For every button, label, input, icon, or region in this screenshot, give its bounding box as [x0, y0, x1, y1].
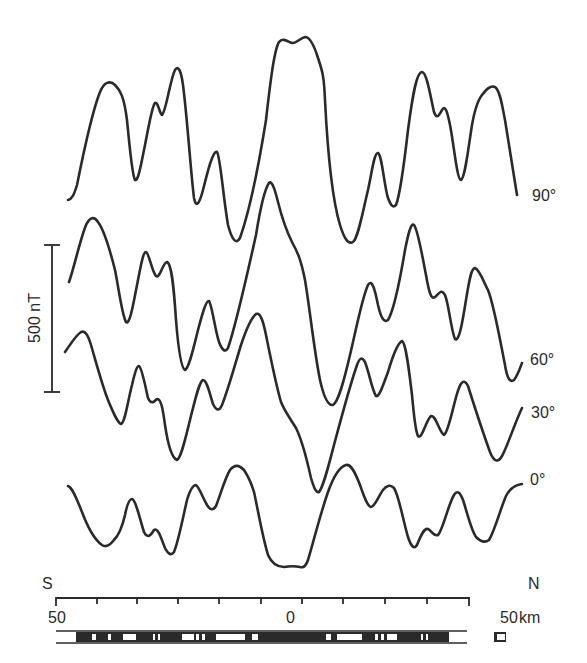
- inclination-label-60: 60°: [530, 352, 554, 368]
- profile-curve-30: [65, 314, 522, 492]
- profile-curve-60: [69, 182, 522, 405]
- polarity-stripes: [56, 631, 506, 643]
- inclination-label-90: 90°: [532, 188, 556, 204]
- scale-bar-label: 500 nT: [27, 293, 43, 343]
- distance-label-center: 0: [286, 610, 295, 626]
- direction-label-north: N: [528, 576, 540, 592]
- distance-unit-label: km: [519, 610, 540, 626]
- profile-curve-0: [68, 465, 522, 567]
- profile-curve-90: [68, 37, 517, 243]
- direction-label-south: S: [42, 576, 53, 592]
- distance-label-left: 50: [48, 610, 66, 626]
- inclination-label-0: 0°: [530, 472, 545, 488]
- distance-label-right: 50: [500, 610, 518, 626]
- magnetic-anomaly-figure: 500 nT 90° 60° 30° 0° S N 50 0 50 km: [0, 0, 587, 663]
- inclination-label-30: 30°: [531, 405, 555, 421]
- figure-svg: [0, 0, 587, 663]
